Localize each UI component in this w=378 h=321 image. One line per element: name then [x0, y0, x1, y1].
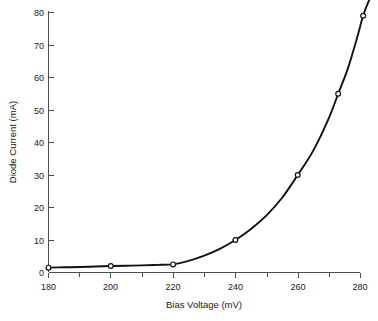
y-tick-label: 10: [34, 236, 44, 246]
data-point-marker: [361, 13, 366, 18]
x-tick-label: 280: [352, 282, 367, 292]
x-tick-label: 260: [290, 282, 305, 292]
x-tick-label: 240: [228, 282, 243, 292]
data-point-marker: [295, 173, 300, 178]
x-axis-title: Bias Voltage (mV): [166, 299, 242, 310]
x-tick-label: 180: [41, 282, 56, 292]
y-tick-label: 20: [34, 203, 44, 213]
y-tick-label: 80: [34, 8, 44, 18]
y-tick-label: 0: [39, 268, 44, 278]
x-tick-label: 200: [103, 282, 118, 292]
data-point-marker: [171, 262, 176, 267]
y-tick-label: 40: [34, 138, 44, 148]
y-tick-label: 30: [34, 171, 44, 181]
data-point-marker: [336, 91, 341, 96]
diode-iv-chart: 0 10 20 30 40 50 60 70 80: [0, 0, 378, 321]
y-axis-tick-labels: 0 10 20 30 40 50 60 70 80: [34, 8, 44, 278]
y-tick-label: 60: [34, 73, 44, 83]
data-point-marker: [233, 238, 238, 243]
chart-figure: 0 10 20 30 40 50 60 70 80: [0, 0, 378, 321]
y-tick-label: 50: [34, 106, 44, 116]
x-tick-label: 220: [165, 282, 180, 292]
y-axis-title: Diode Current (mA): [7, 101, 18, 183]
data-point-marker: [108, 264, 113, 269]
y-tick-label: 70: [34, 41, 44, 51]
data-point-marker: [46, 265, 51, 270]
